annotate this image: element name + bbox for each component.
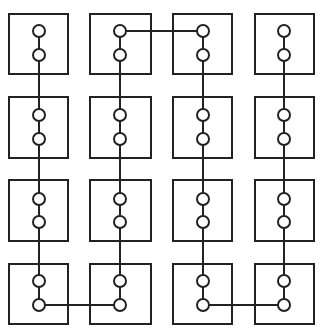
node-circle-icon-r1-c2-top xyxy=(197,109,209,121)
node-circle-icon-r2-c0-top xyxy=(33,193,45,205)
node-circle-icon-r1-c0-top xyxy=(33,109,45,121)
node-circle-icon-r1-c1-bottom xyxy=(114,133,126,145)
node-circle-icon-r3-c0-bottom xyxy=(33,299,45,311)
node-circle-icon-r3-c1-top xyxy=(114,275,126,287)
node-circle-icon-r1-c0-bottom xyxy=(33,133,45,145)
node-circle-icon-r2-c0-bottom xyxy=(33,216,45,228)
node-circle-icon-r3-c2-bottom xyxy=(197,299,209,311)
node-circle-icon-r0-c1-top xyxy=(114,25,126,37)
node-circle-icon-r1-c1-top xyxy=(114,109,126,121)
node-circle-icon-r2-c3-top xyxy=(278,193,290,205)
node-circle-icon-r0-c0-top xyxy=(33,25,45,37)
node-circle-icon-r2-c3-bottom xyxy=(278,216,290,228)
node-circle-icon-r0-c0-bottom xyxy=(33,49,45,61)
node-circle-icon-r0-c2-bottom xyxy=(197,49,209,61)
node-circle-icon-r2-c1-top xyxy=(114,193,126,205)
node-circle-icon-r0-c2-top xyxy=(197,25,209,37)
node-circle-icon-r0-c3-bottom xyxy=(278,49,290,61)
node-circle-icon-r3-c0-top xyxy=(33,275,45,287)
link-layer xyxy=(39,31,284,305)
node-circle-icon-r3-c3-top xyxy=(278,275,290,287)
node-circle-icon-r3-c1-bottom xyxy=(114,299,126,311)
node-circle-icon-r2-c1-bottom xyxy=(114,216,126,228)
node-circle-icon-r1-c3-bottom xyxy=(278,133,290,145)
node-layer xyxy=(33,25,290,311)
node-circle-icon-r0-c1-bottom xyxy=(114,49,126,61)
grid-diagram xyxy=(0,0,325,335)
node-circle-icon-r3-c2-top xyxy=(197,275,209,287)
node-circle-icon-r1-c3-top xyxy=(278,109,290,121)
node-circle-icon-r2-c2-top xyxy=(197,193,209,205)
box-layer xyxy=(9,14,314,324)
node-circle-icon-r2-c2-bottom xyxy=(197,216,209,228)
node-circle-icon-r1-c2-bottom xyxy=(197,133,209,145)
node-circle-icon-r3-c3-bottom xyxy=(278,299,290,311)
node-circle-icon-r0-c3-top xyxy=(278,25,290,37)
